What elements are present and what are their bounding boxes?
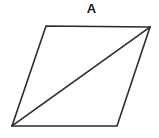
figure-container: A bbox=[0, 0, 159, 138]
parallelogram-diagonal bbox=[12, 27, 150, 126]
parallelogram-figure bbox=[0, 0, 159, 138]
